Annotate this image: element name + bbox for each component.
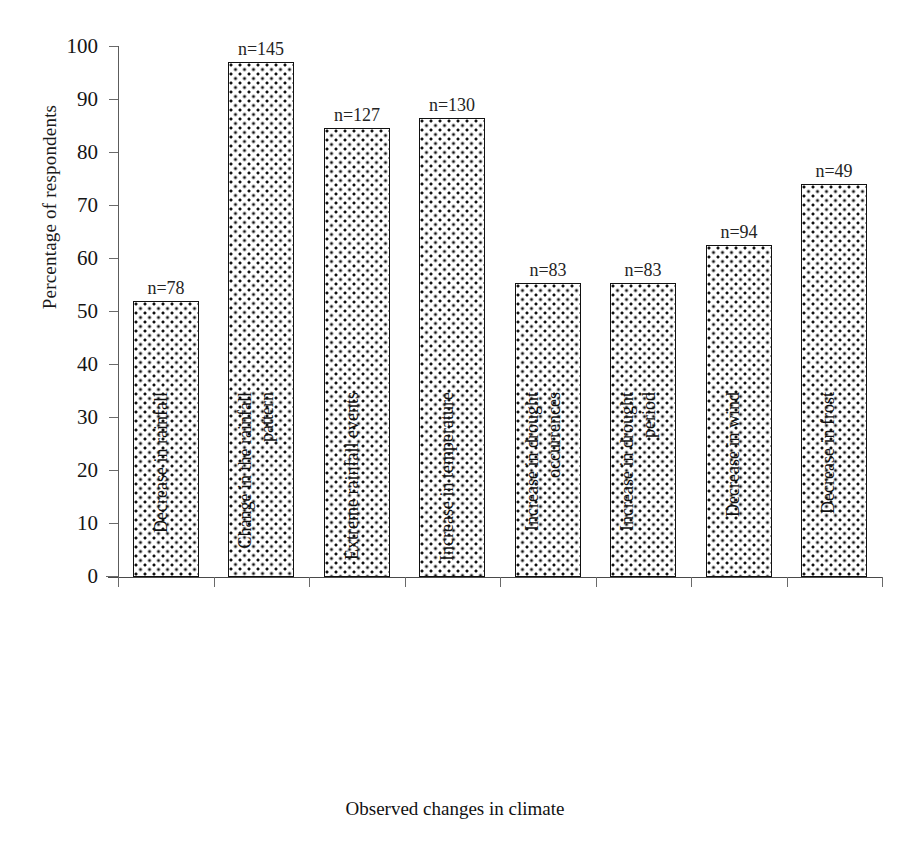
x-axis-title: Observed changes in climate xyxy=(0,798,910,820)
bar-annotation-6: n=94 xyxy=(689,223,789,241)
y-tick-mark-30 xyxy=(109,417,118,418)
y-tick-mark-0 xyxy=(106,576,118,577)
x-category-label-6: Decrease in wind xyxy=(723,392,745,592)
bar-annotation-3: n=130 xyxy=(402,96,502,114)
plot-area: n=78 n=145 n=127 n=130 n=83 n=83 n=94 n=… xyxy=(118,46,883,577)
bar-annotation-2: n=127 xyxy=(307,106,407,124)
x-category-label-1: Change in the rainfall pattern xyxy=(235,392,257,592)
x-category-label-3: Increase in temperature xyxy=(437,392,459,592)
y-tick-label-70: 70 xyxy=(52,195,98,216)
x-tick-mark-5 xyxy=(596,577,597,587)
x-tick-mark-3 xyxy=(405,577,406,587)
x-category-label-5: Increase in drought period xyxy=(617,392,639,592)
x-category-label-7: Decrease in frost xyxy=(818,392,840,592)
bar-annotation-4: n=83 xyxy=(498,261,598,279)
y-tick-label-80: 80 xyxy=(52,142,98,163)
x-category-label-0: Decrease in rainfall xyxy=(151,392,173,592)
y-tick-label-30: 30 xyxy=(52,407,98,428)
y-tick-label-0: 0 xyxy=(52,566,98,587)
y-tick-mark-60 xyxy=(109,258,118,259)
y-tick-mark-80 xyxy=(109,152,118,153)
bar-annotation-7: n=49 xyxy=(784,162,884,180)
bar-annotation-0: n=78 xyxy=(116,279,216,297)
y-tick-mark-10 xyxy=(109,523,118,524)
y-tick-label-50: 50 xyxy=(52,301,98,322)
y-tick-label-90: 90 xyxy=(52,89,98,110)
y-tick-label-20: 20 xyxy=(52,460,98,481)
y-tick-mark-90 xyxy=(109,99,118,100)
y-tick-label-60: 60 xyxy=(52,248,98,269)
x-category-label-4: Increase in drought occurrences xyxy=(522,392,544,592)
y-tick-mark-50 xyxy=(109,311,118,312)
x-axis-line xyxy=(108,577,883,578)
y-tick-label-40: 40 xyxy=(52,354,98,375)
y-tick-mark-20 xyxy=(109,470,118,471)
bar-annotation-1: n=145 xyxy=(211,40,311,58)
y-tick-mark-40 xyxy=(109,364,118,365)
x-tick-mark-4 xyxy=(500,577,501,587)
bar-chart: Percentage of respondents 100 90 80 70 6… xyxy=(0,0,910,845)
x-tick-mark-8 xyxy=(882,577,883,587)
y-tick-label-10: 10 xyxy=(52,513,98,534)
x-tick-mark-6 xyxy=(691,577,692,587)
x-tick-mark-0 xyxy=(118,577,119,587)
x-tick-mark-1 xyxy=(214,577,215,587)
y-axis-line xyxy=(118,46,119,577)
bar-annotation-5: n=83 xyxy=(593,261,693,279)
x-tick-mark-2 xyxy=(309,577,310,587)
y-tick-mark-70 xyxy=(109,205,118,206)
x-tick-mark-7 xyxy=(787,577,788,587)
y-tick-label-100: 100 xyxy=(52,36,98,57)
y-tick-mark-100 xyxy=(109,46,118,47)
x-category-label-2: Extreme rainfall events xyxy=(342,392,364,592)
